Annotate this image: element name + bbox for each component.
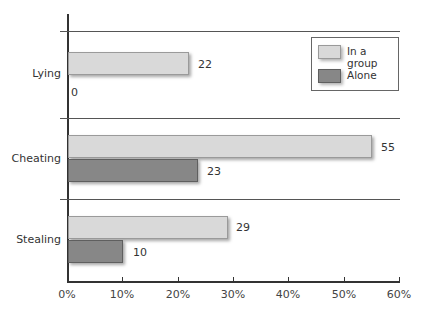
value-label: 29 [236, 221, 250, 234]
bar-lying-group [68, 52, 189, 75]
category-label-lying: Lying [0, 67, 61, 80]
x-tick [178, 277, 179, 282]
legend: In a group Alone [311, 37, 399, 91]
value-label: 22 [198, 58, 212, 71]
x-tick [399, 277, 400, 282]
value-label: 55 [381, 141, 395, 154]
x-tick [344, 277, 345, 282]
x-tick [122, 277, 123, 282]
category-divider [60, 118, 400, 119]
value-label: 10 [133, 246, 147, 259]
value-label: 23 [207, 165, 221, 178]
legend-swatch-group [318, 45, 341, 59]
category-label-stealing: Stealing [0, 233, 61, 246]
x-tick-label: 60% [379, 288, 419, 301]
x-tick [67, 277, 68, 282]
legend-swatch-alone [318, 69, 341, 83]
x-tick-label: 50% [324, 288, 364, 301]
bar-stealing-alone [68, 240, 123, 263]
x-tick [233, 277, 234, 282]
bar-cheating-alone [68, 159, 198, 182]
category-label-cheating: Cheating [0, 152, 61, 165]
x-tick-label: 30% [213, 288, 253, 301]
category-divider [60, 199, 400, 200]
x-tick-label: 10% [102, 288, 142, 301]
legend-label-group: In a group [347, 45, 398, 69]
x-tick [288, 277, 289, 282]
category-divider [60, 31, 400, 32]
x-tick-label: 40% [268, 288, 308, 301]
value-label: 0 [71, 86, 78, 99]
bar-cheating-group [68, 135, 372, 158]
legend-label-alone: Alone [347, 69, 377, 81]
bar-stealing-group [68, 216, 228, 239]
x-tick-label: 20% [158, 288, 198, 301]
x-tick-label: 0% [47, 288, 87, 301]
